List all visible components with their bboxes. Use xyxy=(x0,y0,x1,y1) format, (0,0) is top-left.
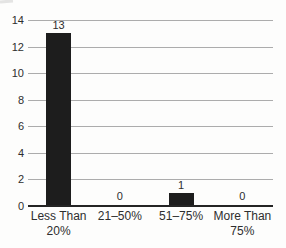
x-category-label: More Than75% xyxy=(197,209,286,239)
y-tick-label: 10 xyxy=(0,68,24,79)
x-category-label-line: 75% xyxy=(197,224,286,239)
y-tick-label: 12 xyxy=(0,42,24,53)
bar-chart-figure: 02468101214 13010 Less Than20%21–50%51–7… xyxy=(0,0,286,248)
y-tick-label: 8 xyxy=(0,95,24,106)
x-category-label-line: 20% xyxy=(14,224,104,239)
bar-value-label: 0 xyxy=(105,190,135,203)
scan-artifact xyxy=(0,0,13,3)
bar-value-label: 13 xyxy=(44,19,74,32)
bar-value-label: 1 xyxy=(166,179,196,192)
y-tick-label: 14 xyxy=(0,15,24,26)
y-tick-label: 6 xyxy=(0,121,24,132)
bar xyxy=(169,193,194,206)
bar-value-label: 0 xyxy=(227,190,257,203)
bar xyxy=(46,33,71,206)
x-axis-baseline xyxy=(28,205,273,207)
x-category-label-line: More Than xyxy=(197,209,286,224)
y-tick-label: 2 xyxy=(0,174,24,185)
scan-cutoff-fade xyxy=(0,239,286,248)
y-tick-label: 4 xyxy=(0,148,24,159)
